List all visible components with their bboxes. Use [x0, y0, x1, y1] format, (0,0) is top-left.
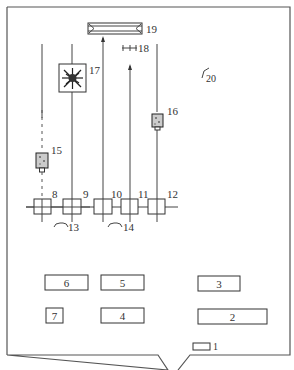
component-11-square: 11 [121, 188, 149, 222]
component-16-block: 16 [152, 105, 179, 130]
component-13-arc: 13 [54, 221, 80, 233]
component-1-box: 1 [193, 341, 218, 352]
component-3-box: 3 [198, 276, 240, 291]
label-1: 1 [213, 341, 218, 352]
component-2-box: 2 [198, 309, 267, 324]
component-17-target: 17 [59, 64, 101, 92]
label-20: 20 [206, 73, 216, 84]
arrow-up-icon [128, 64, 132, 70]
component-10-square: 10 [94, 188, 123, 222]
component-19-prism: 19 [88, 23, 158, 35]
label-4: 4 [120, 310, 126, 322]
label-18: 18 [138, 42, 150, 54]
label-7: 7 [52, 310, 58, 322]
label-10: 10 [111, 188, 123, 200]
label-19: 19 [146, 23, 158, 35]
label-9: 9 [83, 188, 89, 200]
layout-diagram: 19 18 17 20 [0, 0, 294, 370]
label-11: 11 [138, 188, 149, 200]
component-6-box: 6 [45, 275, 88, 290]
label-14: 14 [123, 221, 135, 233]
component-4-box: 4 [101, 308, 144, 323]
component-12-square: 12 [148, 188, 178, 222]
component-7-box: 7 [46, 308, 63, 323]
label-15: 15 [51, 144, 63, 156]
component-15-block: 15 [36, 144, 63, 172]
label-16: 16 [167, 105, 179, 117]
component-14-arc: 14 [108, 221, 135, 233]
arrow-up-icon [101, 36, 105, 42]
component-9-square: 9 [60, 188, 90, 222]
label-12: 12 [167, 188, 178, 200]
label-5: 5 [120, 277, 126, 289]
component-5-box: 5 [101, 275, 144, 290]
label-6: 6 [64, 277, 70, 289]
component-8-square: 8 [26, 188, 60, 222]
label-8: 8 [52, 188, 58, 200]
label-13: 13 [68, 221, 80, 233]
component-18-marker: 18 [122, 42, 150, 54]
label-3: 3 [216, 278, 222, 290]
component-20-mark: 20 [202, 68, 216, 84]
label-17: 17 [89, 64, 101, 76]
label-2: 2 [230, 311, 236, 323]
